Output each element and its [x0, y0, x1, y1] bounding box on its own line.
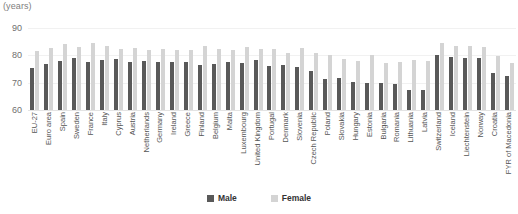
x-axis-category-labels: EU-27Euro areaSpainSwedenFranceItalyCypr… [28, 112, 516, 190]
x-tick-label: EU-27 [31, 112, 39, 133]
y-tick-label: 70 [0, 78, 22, 88]
bar-female[interactable] [496, 56, 500, 110]
legend-swatch-male-icon [207, 195, 214, 202]
bar-male[interactable] [86, 62, 90, 110]
bar-male[interactable] [267, 66, 271, 110]
bar-male[interactable] [407, 90, 411, 111]
bar-female[interactable] [384, 63, 388, 110]
bar-female[interactable] [482, 47, 486, 110]
legend-item-female[interactable]: Female [271, 193, 311, 203]
bar-female[interactable] [356, 61, 360, 110]
bar-female[interactable] [426, 61, 430, 110]
y-axis-units-label: (years) [3, 1, 32, 11]
x-tick-label: Ireland [170, 112, 178, 135]
bar-group [42, 28, 56, 110]
bar-female[interactable] [342, 59, 346, 110]
x-tick-label: Lithuania [407, 112, 415, 142]
bar-male[interactable] [58, 61, 62, 110]
bar-male[interactable] [421, 90, 425, 110]
bar-female[interactable] [440, 43, 444, 111]
bar-female[interactable] [119, 49, 123, 110]
x-tick-label: Sweden [73, 112, 81, 139]
bar-male[interactable] [337, 78, 341, 110]
bar-male[interactable] [491, 73, 495, 110]
bar-male[interactable] [184, 62, 188, 110]
bar-female[interactable] [328, 55, 332, 110]
bar-male[interactable] [212, 64, 216, 110]
bar-male[interactable] [379, 83, 383, 110]
bar-male[interactable] [365, 83, 369, 110]
bar-female[interactable] [398, 62, 402, 110]
bar-male[interactable] [463, 58, 467, 110]
bar-female[interactable] [77, 47, 81, 110]
bar-male[interactable] [240, 63, 244, 110]
x-tick-label: Cyprus [115, 112, 123, 136]
bar-male[interactable] [142, 61, 146, 110]
x-tick-label: Slovakia [338, 112, 346, 140]
bar-male[interactable] [30, 68, 34, 110]
bar-male[interactable] [323, 79, 327, 110]
bar-female[interactable] [35, 51, 39, 110]
bar-male[interactable] [449, 57, 453, 110]
bar-female[interactable] [105, 46, 109, 111]
bar-male[interactable] [477, 58, 481, 110]
bar-group [279, 28, 293, 110]
x-tick-label: Belgium [212, 112, 220, 139]
bar-female[interactable] [272, 49, 276, 110]
bar-male[interactable] [156, 62, 160, 110]
bar-female[interactable] [468, 46, 472, 110]
bar-female[interactable] [175, 50, 179, 110]
bar-male[interactable] [170, 62, 174, 110]
bar-female[interactable] [314, 53, 318, 110]
bar-female[interactable] [147, 50, 151, 110]
bar-group [223, 28, 237, 110]
bar-female[interactable] [300, 48, 304, 110]
bar-male[interactable] [295, 67, 299, 110]
bar-female[interactable] [510, 63, 514, 110]
bar-female[interactable] [63, 44, 67, 110]
bar-male[interactable] [351, 82, 355, 110]
bar-female[interactable] [231, 50, 235, 110]
legend-label-female: Female [282, 193, 311, 203]
bar-group [363, 28, 377, 110]
bar-male[interactable] [198, 65, 202, 110]
bar-male[interactable] [435, 55, 439, 110]
bar-male[interactable] [254, 60, 258, 110]
x-tick-label: Malta [226, 112, 234, 130]
bar-male[interactable] [226, 62, 230, 110]
bar-female[interactable] [217, 49, 221, 110]
bar-group [307, 28, 321, 110]
bar-male[interactable] [44, 64, 48, 110]
x-tick-label: Croatia [491, 112, 499, 136]
bar-male[interactable] [309, 71, 313, 110]
x-tick-label: Poland [324, 112, 332, 135]
bar-male[interactable] [505, 76, 509, 110]
x-tick-label: Finland [198, 112, 206, 137]
bar-female[interactable] [286, 53, 290, 110]
bar-male[interactable] [393, 84, 397, 110]
bar-group [153, 28, 167, 110]
bar-female[interactable] [412, 60, 416, 110]
bar-female[interactable] [203, 46, 207, 110]
bar-male[interactable] [128, 62, 132, 110]
x-tick-label: Czech Republic [310, 112, 318, 165]
legend-item-male[interactable]: Male [207, 193, 237, 203]
bar-group [460, 28, 474, 110]
bar-male[interactable] [72, 58, 76, 110]
bar-male[interactable] [114, 59, 118, 110]
bar-female[interactable] [189, 50, 193, 110]
x-tick-label: Bulgaria [380, 112, 388, 140]
bar-group [265, 28, 279, 110]
bar-female[interactable] [454, 46, 458, 111]
bar-female[interactable] [133, 48, 137, 110]
bar-female[interactable] [370, 55, 374, 110]
bar-female[interactable] [245, 47, 249, 110]
bar-female[interactable] [259, 49, 263, 110]
x-tick-label: Spain [59, 112, 67, 131]
bar-female[interactable] [49, 48, 53, 110]
bar-female[interactable] [91, 43, 95, 110]
bar-male[interactable] [281, 65, 285, 110]
bar-male[interactable] [100, 60, 104, 110]
bar-female[interactable] [161, 49, 165, 110]
bars-layer [28, 28, 516, 110]
